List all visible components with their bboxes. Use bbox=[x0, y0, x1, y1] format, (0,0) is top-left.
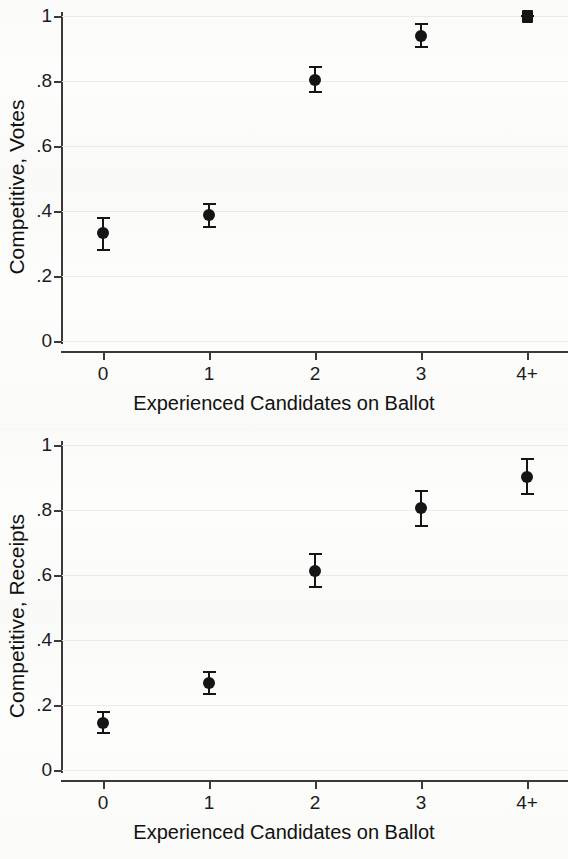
data-point-marker bbox=[97, 227, 109, 239]
x-tick-label: 0 bbox=[73, 364, 133, 383]
y-tick-mark bbox=[54, 276, 62, 278]
gridline bbox=[62, 341, 568, 342]
data-point-marker bbox=[309, 565, 321, 577]
panel-competitive-receipts: Competitive, Receipts 0.2.4.6.81 01234+ … bbox=[0, 429, 568, 859]
x-tick-label: 0 bbox=[73, 793, 133, 812]
y-tick-label: .6 bbox=[8, 565, 52, 584]
x-tick-label: 1 bbox=[179, 364, 239, 383]
x-tick-label: 2 bbox=[285, 364, 345, 383]
error-bar-cap-upper bbox=[97, 711, 110, 713]
gridline bbox=[62, 146, 568, 147]
y-tick-mark bbox=[54, 146, 62, 148]
data-point-marker bbox=[97, 717, 109, 729]
error-bar-cap-lower bbox=[521, 493, 534, 495]
y-tick-label: .4 bbox=[8, 630, 52, 649]
y-tick-mark bbox=[54, 16, 62, 18]
y-tick-mark bbox=[54, 341, 62, 343]
figure-two-panel-scatter: Competitive, Votes 0.2.4.6.81 01234+ Exp… bbox=[0, 0, 568, 859]
gridline bbox=[62, 445, 568, 446]
data-point-marker bbox=[203, 677, 215, 689]
plot-area-top bbox=[62, 14, 568, 342]
error-bar-cap-lower bbox=[203, 226, 216, 228]
gridline bbox=[62, 770, 568, 771]
error-bar-cap-lower bbox=[97, 249, 110, 251]
error-bar-cap-lower bbox=[97, 732, 110, 734]
gridline bbox=[62, 211, 568, 212]
data-point-marker bbox=[415, 502, 427, 514]
error-bar-cap-lower bbox=[309, 91, 322, 93]
x-tick-mark bbox=[103, 352, 105, 360]
y-tick-mark bbox=[54, 705, 62, 707]
y-tick-label: .2 bbox=[8, 695, 52, 714]
x-tick-mark bbox=[421, 781, 423, 789]
plot-area-bottom bbox=[62, 443, 568, 771]
gridline bbox=[62, 705, 568, 706]
data-point-marker bbox=[522, 10, 533, 23]
y-tick-label: .6 bbox=[8, 136, 52, 155]
y-tick-label: .8 bbox=[8, 71, 52, 90]
x-tick-mark bbox=[315, 352, 317, 360]
gridline bbox=[62, 510, 568, 511]
y-tick-mark bbox=[54, 575, 62, 577]
y-tick-label: .8 bbox=[8, 500, 52, 519]
error-bar-cap-upper bbox=[97, 217, 110, 219]
x-tick-mark bbox=[103, 781, 105, 789]
y-tick-mark bbox=[54, 640, 62, 642]
error-bar-cap-lower bbox=[309, 586, 322, 588]
x-tick-label: 4+ bbox=[497, 793, 557, 812]
y-tick-mark bbox=[54, 770, 62, 772]
x-tick-mark bbox=[315, 781, 317, 789]
error-bar-cap-upper bbox=[309, 66, 322, 68]
x-tick-mark bbox=[527, 352, 529, 360]
error-bar-cap-lower bbox=[203, 693, 216, 695]
panel-competitive-votes: Competitive, Votes 0.2.4.6.81 01234+ Exp… bbox=[0, 0, 568, 430]
x-tick-mark bbox=[209, 781, 211, 789]
y-tick-mark bbox=[54, 445, 62, 447]
data-point-marker bbox=[309, 74, 321, 86]
x-tick-label: 2 bbox=[285, 793, 345, 812]
x-tick-mark bbox=[421, 352, 423, 360]
error-bar-cap-lower bbox=[415, 525, 428, 527]
gridline bbox=[62, 640, 568, 641]
x-tick-mark bbox=[209, 352, 211, 360]
y-tick-label: 1 bbox=[8, 435, 52, 454]
x-axis-title-bottom: Experienced Candidates on Ballot bbox=[0, 821, 568, 843]
y-tick-label: 0 bbox=[8, 331, 52, 350]
y-tick-mark bbox=[54, 81, 62, 83]
error-bar-cap-upper bbox=[415, 490, 428, 492]
error-bar-cap-upper bbox=[521, 458, 534, 460]
x-tick-label: 3 bbox=[391, 793, 451, 812]
error-bar-cap-upper bbox=[415, 23, 428, 25]
error-bar-cap-upper bbox=[309, 553, 322, 555]
y-tick-mark bbox=[54, 211, 62, 213]
gridline bbox=[62, 276, 568, 277]
x-tick-mark bbox=[527, 781, 529, 789]
data-point-marker bbox=[521, 471, 533, 483]
x-tick-label: 3 bbox=[391, 364, 451, 383]
x-axis-title-top: Experienced Candidates on Ballot bbox=[0, 392, 568, 414]
y-tick-label: 1 bbox=[8, 6, 52, 25]
data-point-marker bbox=[415, 30, 427, 42]
y-tick-label: 0 bbox=[8, 760, 52, 779]
gridline bbox=[62, 16, 568, 17]
y-tick-label: .4 bbox=[8, 201, 52, 220]
error-bar-cap-lower bbox=[415, 46, 428, 48]
x-tick-label: 4+ bbox=[497, 364, 557, 383]
error-bar-cap-upper bbox=[203, 671, 216, 673]
error-bar-cap-upper bbox=[203, 203, 216, 205]
y-tick-mark bbox=[54, 510, 62, 512]
x-tick-label: 1 bbox=[179, 793, 239, 812]
y-tick-label: .2 bbox=[8, 266, 52, 285]
data-point-marker bbox=[203, 209, 215, 221]
